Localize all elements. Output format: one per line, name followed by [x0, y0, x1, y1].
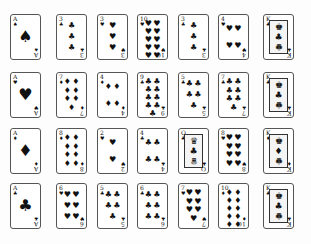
suit-pip-icon: ♣ [109, 213, 117, 221]
suit-pip-icon: ♥ [63, 202, 71, 210]
pip-area: ♦♦♦♦♦♦♦ [63, 78, 80, 112]
pip-area: ♥♥♥♥♥♥♥ [185, 189, 202, 223]
card-seven-of-hearts[interactable]: 7♥♥♥♥♥♥♥♥♥7 [178, 183, 209, 229]
rank-label: 10 [157, 52, 165, 58]
pip-area: ♣♣♣ [63, 20, 80, 54]
card-six-of-hearts[interactable]: 6♥♥♥♥♥♥♥♥6 [56, 183, 87, 229]
card-four-of-diamonds[interactable]: 4♦♦♦♦♦♦4 [97, 72, 128, 118]
suit-pip-icon: ♣ [153, 139, 161, 147]
card-six-of-clubs[interactable]: 6♣♣♣♣♣♣♣♣6 [137, 183, 168, 229]
suit-pip-icon: ♣ [194, 91, 202, 99]
card-five-of-clubs[interactable]: 5♣♣♣♣♣♣♣5 [178, 72, 209, 118]
rank-label: 5 [202, 110, 206, 116]
pip-area: ♣ [17, 189, 34, 223]
card-seven-of-diamonds[interactable]: 7♦♦♦♦♦♦♦♦♦7 [56, 72, 87, 118]
suit-pip-icon: ♥ [72, 191, 80, 199]
suit-pip-icon: ♣ [113, 191, 121, 199]
rank-label: 6 [80, 221, 84, 227]
pip-area: ♣♣♣♣♣ [185, 78, 202, 112]
rank-label: 3 [121, 52, 125, 58]
card-nine-of-clubs[interactable]: 9♣♣♣♣♣♣♣♣♣♣♣9 [137, 72, 168, 118]
pip-area: ♥♥♥♥ [225, 20, 242, 54]
card-seven-of-clubs[interactable]: 7♣♣♣♣♣♣♣♣♣7 [218, 72, 249, 118]
card-eight-of-diamonds[interactable]: 8♦♦♦♦♦♦♦♦♦♦8 [56, 128, 87, 174]
suit-pip-icon: ♥ [190, 215, 198, 223]
pip-area: ♦♦♦♦♦♦♦♦♦♦ [225, 189, 242, 223]
card-ace-of-spades[interactable]: A♠♠♠A [10, 14, 41, 60]
pip-area: ♣♣♣♣♣♣♣♣♣ [144, 78, 161, 112]
card-ten-of-hearts[interactable]: 10♥♥♥♥♥♥♥♥♥♥♥♥10 [137, 14, 168, 60]
suit-pip-icon: ♥ [225, 160, 233, 168]
suit-pip-icon: ♠ [17, 29, 34, 45]
suit-pip-icon: ♣ [185, 22, 202, 30]
suit-pip-icon: ♥ [17, 87, 34, 103]
suit-pip-icon: ♣ [185, 44, 202, 52]
rank-label: 7 [242, 110, 246, 116]
card-three-of-hearts[interactable]: 3♥♥♥♥♥3 [97, 14, 128, 60]
card-ace-of-clubs[interactable]: A♣♣♣A [10, 183, 41, 229]
suit-pip-icon: ♦ [72, 160, 80, 168]
card-ace-of-hearts[interactable]: A♥♥♥A [10, 72, 41, 118]
court-figure-icon: ♚♣♚ [269, 78, 288, 112]
rank-label: 3 [202, 52, 206, 58]
suit-pip-icon: ♣ [104, 191, 112, 199]
suit-pip-icon: ♣ [153, 191, 161, 199]
suit-pip-icon: ♥ [234, 160, 242, 168]
pip-area: ♣♣♣♣ [144, 134, 161, 168]
pip-area: ♥♥ [104, 134, 121, 168]
rank-label: 10 [238, 221, 246, 227]
suit-pip-icon: ♥ [225, 42, 233, 50]
court-figure-icon: ♚♣♚ [269, 189, 288, 223]
card-four-of-clubs[interactable]: 4♣♣♣♣♣♣4 [137, 128, 168, 174]
suit-pip-icon: ♥ [144, 52, 152, 60]
suit-pip-icon: ♣ [144, 213, 152, 221]
card-eight-of-hearts[interactable]: 8♥♥♥♥♥♥♥♥♥♥8 [218, 128, 249, 174]
suit-pip-icon: ♥ [63, 191, 71, 199]
suit-pip-icon: ♥ [104, 156, 121, 164]
card-king-of-diamonds[interactable]: K♦♚♦♚♦K [263, 128, 294, 174]
suit-pip-icon: ♥ [234, 25, 242, 33]
suit-pip-icon: ♣ [185, 33, 202, 41]
rank-label: A [34, 221, 38, 227]
card-four-of-hearts[interactable]: 4♥♥♥♥♥♥4 [218, 14, 249, 60]
rank-label: 2 [121, 166, 125, 172]
suit-pip-icon: ♦ [68, 104, 76, 112]
rank-label: 4 [161, 166, 165, 172]
card-king-of-clubs[interactable]: K♣♚♣♚♣K [263, 183, 294, 229]
suit-pip-icon: ♦ [63, 160, 71, 168]
card-king-of-clubs[interactable]: K♣♚♣♚♣K [263, 72, 294, 118]
suit-pip-icon: ♣ [144, 139, 152, 147]
rank-label: K [287, 166, 291, 172]
card-two-of-hearts[interactable]: 2♥♥♥♥2 [97, 128, 128, 174]
card-three-of-clubs[interactable]: 3♣♣♣♣♣3 [56, 14, 87, 60]
rank-label: 4 [121, 110, 125, 116]
suit-pip-icon: ♦ [104, 100, 112, 108]
rank-label: 7 [202, 221, 206, 227]
card-ten-of-diamonds[interactable]: 10♦♦♦♦♦♦♦♦♦♦♦♦10 [218, 183, 249, 229]
suit-pip-icon: ♣ [63, 44, 80, 52]
pip-area: ♥♥♥♥♥♥♥♥ [225, 134, 242, 168]
suit-pip-icon: ♥ [104, 22, 121, 30]
rank-label: 8 [242, 166, 246, 172]
court-figure-icon: ♚♦♚ [269, 134, 288, 168]
suit-pip-icon: ♥ [234, 42, 242, 50]
rank-label: 8 [80, 166, 84, 172]
suit-pip-icon: ♦ [225, 221, 233, 229]
suit-pip-icon: ♣ [149, 110, 157, 118]
suit-pip-icon: ♣ [63, 33, 80, 41]
suit-pip-icon: ♣ [113, 202, 121, 210]
suit-pip-icon: ♣ [185, 91, 193, 99]
pip-area: ♥♥♥♥♥♥♥♥♥♥ [144, 20, 161, 54]
pip-area: ♣♣♣♣♣♣♣ [225, 78, 242, 112]
suit-pip-icon: ♦ [113, 83, 121, 91]
suit-pip-icon: ♦ [17, 143, 34, 159]
rank-label: K [287, 221, 291, 227]
rank-label: 5 [121, 221, 125, 227]
card-ace-of-diamonds[interactable]: A♦♦♦A [10, 128, 41, 174]
suit-pip-icon: ♥ [63, 213, 71, 221]
card-queen-of-clubs[interactable]: Q♣♛♣♛♣Q [178, 128, 209, 174]
card-king-of-clubs[interactable]: K♣♚♣♚♣K [263, 14, 294, 60]
card-three-of-clubs[interactable]: 3♣♣♣♣♣3 [178, 14, 209, 60]
card-five-of-clubs[interactable]: 5♣♣♣♣♣♣♣5 [97, 183, 128, 229]
suit-pip-icon: ♦ [113, 100, 121, 108]
